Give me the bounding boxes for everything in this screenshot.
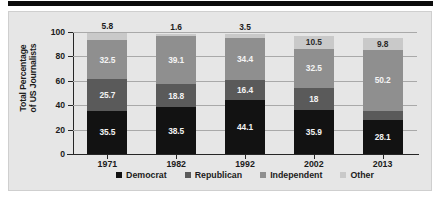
- y-tick-mark: [68, 154, 73, 155]
- legend-swatch-icon: [340, 172, 346, 178]
- legend-item-democrat[interactable]: Democrat: [116, 170, 167, 180]
- bar-value-label: 35.9: [306, 127, 322, 137]
- bar-segment-independent[interactable]: 32.5: [294, 49, 334, 89]
- legend-label: Republican: [195, 170, 242, 180]
- figure-frame: Total Percentage of US Journalists 02040…: [8, 11, 432, 191]
- bar-segment-independent[interactable]: 32.5: [87, 40, 127, 80]
- bar-segment-other[interactable]: [87, 33, 127, 40]
- y-tick-mark: [68, 105, 73, 106]
- x-tick-label-1971: 1971: [77, 159, 137, 169]
- bar-segment-other[interactable]: 9.8: [363, 38, 403, 50]
- y-axis-title: Total Percentage of US Journalists: [18, 23, 38, 133]
- bar-segment-other[interactable]: 10.5: [294, 36, 334, 49]
- legend-item-other[interactable]: Other: [340, 170, 373, 180]
- y-tick-label: 60: [39, 76, 65, 86]
- y-axis-line: [73, 32, 74, 154]
- bar-segment-democrat[interactable]: 35.5: [87, 111, 127, 154]
- bar-value-label-outside: 5.8: [102, 21, 114, 31]
- x-tick-label-1992: 1992: [215, 159, 275, 169]
- chart-page: Total Percentage of US Journalists 02040…: [0, 0, 441, 197]
- y-axis-title-line1: Total Percentage: [18, 23, 28, 133]
- y-tick-label: 80: [39, 51, 65, 61]
- bar-value-label: 34.4: [237, 54, 253, 64]
- legend-label: Independent: [270, 170, 322, 180]
- x-tick-label-1982: 1982: [146, 159, 206, 169]
- y-tick-mark: [68, 32, 73, 33]
- bar-value-label: 16.4: [237, 85, 253, 95]
- bar-segment-independent[interactable]: 50.2: [363, 50, 403, 111]
- bar-value-label: 38.5: [168, 126, 184, 136]
- legend-swatch-icon: [185, 172, 191, 178]
- bar-segment-democrat[interactable]: 44.1: [225, 100, 265, 154]
- y-tick-label: 0: [39, 149, 65, 159]
- bar-value-label-outside: 3.5: [239, 22, 251, 32]
- bar-value-label: 35.5: [99, 127, 115, 137]
- bar-value-label: 10.5: [306, 37, 322, 47]
- x-tick-label-2002: 2002: [284, 159, 344, 169]
- bar-value-label: 9.8: [377, 39, 388, 49]
- legend-label: Other: [350, 170, 373, 180]
- bar-value-label-outside: 1.6: [170, 22, 182, 32]
- bar-segment-democrat[interactable]: 28.1: [363, 120, 403, 154]
- bar-value-label: 44.1: [237, 122, 253, 132]
- y-tick-label: 40: [39, 100, 65, 110]
- bar-segment-republican[interactable]: 18: [294, 88, 334, 110]
- bar-value-label: 18.8: [168, 91, 184, 101]
- bar-segment-republican[interactable]: 16.4: [225, 80, 265, 100]
- bar-segment-independent[interactable]: 34.4: [225, 38, 265, 80]
- bar-segment-republican[interactable]: 18.8: [156, 84, 196, 107]
- bar-value-label: 39.1: [168, 55, 184, 65]
- legend-swatch-icon: [116, 172, 122, 178]
- y-tick-mark: [68, 56, 73, 57]
- bar-segment-democrat[interactable]: 35.9: [294, 110, 334, 154]
- stacked-bar-chart: Total Percentage of US Journalists 02040…: [9, 12, 433, 192]
- legend-label: Democrat: [126, 170, 167, 180]
- y-tick-mark: [68, 81, 73, 82]
- x-axis-line: [67, 154, 419, 155]
- legend-item-independent[interactable]: Independent: [260, 170, 322, 180]
- bar-value-label: 18: [309, 94, 318, 104]
- bar-segment-democrat[interactable]: 38.5: [156, 107, 196, 154]
- bar-value-label: 50.2: [375, 75, 391, 85]
- bar-value-label: 25.7: [99, 90, 115, 100]
- bar-segment-other[interactable]: [156, 34, 196, 36]
- chart-legend: DemocratRepublicanIndependentOther: [73, 170, 417, 180]
- bar-segment-independent[interactable]: 39.1: [156, 36, 196, 84]
- bar-value-label: 28.1: [375, 132, 391, 142]
- bar-segment-republican[interactable]: 25.7: [87, 79, 127, 110]
- y-tick-label: 100: [39, 27, 65, 37]
- legend-swatch-icon: [260, 172, 266, 178]
- scan-edge-bar: [8, 1, 433, 6]
- y-axis-title-line2: of US Journalists: [28, 23, 38, 133]
- bar-value-label: 32.5: [99, 55, 115, 65]
- y-tick-label: 20: [39, 125, 65, 135]
- x-tick-label-2013: 2013: [353, 159, 413, 169]
- bar-value-label: 32.5: [306, 63, 322, 73]
- bar-segment-other[interactable]: [225, 34, 265, 38]
- legend-item-republican[interactable]: Republican: [185, 170, 242, 180]
- y-tick-mark: [68, 130, 73, 131]
- plot-area: 02040608010035.525.732.55.8197138.518.83…: [73, 32, 417, 154]
- bar-segment-republican[interactable]: [363, 111, 403, 120]
